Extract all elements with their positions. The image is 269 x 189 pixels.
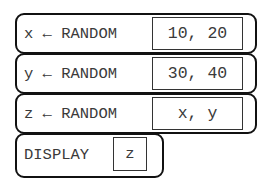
- code-block-assign-x[interactable]: x ← RANDOM 10, 20: [15, 13, 257, 54]
- code-block-assign-y[interactable]: y ← RANDOM 30, 40: [15, 53, 257, 94]
- code-block-assign-z[interactable]: z ← RANDOM x, y: [15, 93, 257, 134]
- display-arg-slot[interactable]: z: [113, 137, 147, 171]
- display-statement: DISPLAY: [24, 146, 89, 164]
- assign-y-statement: y ← RANDOM: [24, 65, 117, 83]
- assign-z-statement: z ← RANDOM: [24, 105, 117, 123]
- random-y-args-slot[interactable]: 30, 40: [152, 57, 243, 90]
- code-block-display[interactable]: DISPLAY z: [15, 133, 164, 178]
- random-x-args-slot[interactable]: 10, 20: [152, 17, 243, 50]
- assign-x-statement: x ← RANDOM: [24, 25, 117, 43]
- random-z-args-slot[interactable]: x, y: [152, 97, 243, 130]
